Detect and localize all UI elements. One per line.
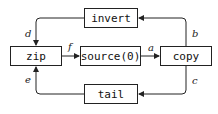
node-tail: tail bbox=[84, 84, 138, 104]
edge-e bbox=[36, 67, 84, 94]
node-zip: zip bbox=[10, 46, 62, 66]
node-copy: copy bbox=[160, 46, 212, 66]
edge-label-b: b bbox=[192, 29, 198, 39]
node-source-label: source(0) bbox=[81, 50, 141, 63]
node-invert-label: invert bbox=[91, 12, 131, 25]
edge-label-a: a bbox=[148, 43, 154, 53]
node-tail-label: tail bbox=[98, 88, 125, 101]
edge-c bbox=[139, 66, 186, 94]
node-copy-label: copy bbox=[173, 50, 200, 63]
edge-d bbox=[36, 18, 84, 45]
node-invert: invert bbox=[84, 8, 138, 28]
node-source: source(0) bbox=[80, 46, 141, 66]
edge-label-f: f bbox=[68, 42, 72, 52]
node-zip-label: zip bbox=[26, 50, 46, 63]
edge-label-e: e bbox=[25, 75, 31, 85]
edge-label-c: c bbox=[192, 76, 198, 86]
edge-b bbox=[139, 18, 186, 46]
edge-label-d: d bbox=[25, 29, 31, 39]
